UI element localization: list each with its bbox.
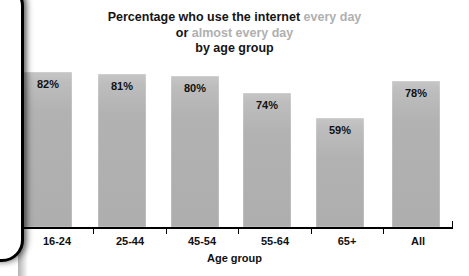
bar-value-16-24: 82%	[24, 78, 72, 90]
bar-value-55-64: 74%	[243, 99, 291, 111]
bar-55-64	[243, 93, 291, 227]
plot-area: 82% 81% 80% 74% 59% 78% 16-24 25-44 45-5…	[0, 0, 469, 276]
x-axis-tick-2	[166, 227, 167, 234]
x-axis-tick-5	[383, 227, 384, 234]
x-axis-title: Age group	[0, 252, 469, 264]
bar-value-65-plus: 59%	[316, 124, 364, 136]
x-axis-tick-3	[238, 227, 239, 234]
x-axis-label-65-plus: 65+	[317, 235, 377, 247]
x-axis-label-25-44: 25-44	[100, 235, 160, 247]
x-axis-line	[22, 227, 452, 229]
bar-value-45-54: 80%	[171, 82, 219, 94]
x-axis-label-all: All	[388, 235, 448, 247]
bar-16-24	[24, 72, 72, 227]
bar-value-all: 78%	[392, 87, 440, 99]
page-edge-border	[0, 0, 24, 262]
chart-container: Percentage who use the internet every da…	[0, 0, 469, 276]
x-axis-label-45-54: 45-54	[172, 235, 232, 247]
x-axis-label-55-64: 55-64	[245, 235, 305, 247]
x-axis-tick-1	[93, 227, 94, 234]
bar-all	[392, 81, 440, 227]
x-axis-tick-4	[311, 227, 312, 234]
bar-45-54	[171, 76, 219, 227]
x-axis-label-16-24: 16-24	[27, 235, 87, 247]
bar-25-44	[98, 74, 146, 227]
x-axis-tick-end	[452, 221, 453, 229]
bar-value-25-44: 81%	[98, 80, 146, 92]
